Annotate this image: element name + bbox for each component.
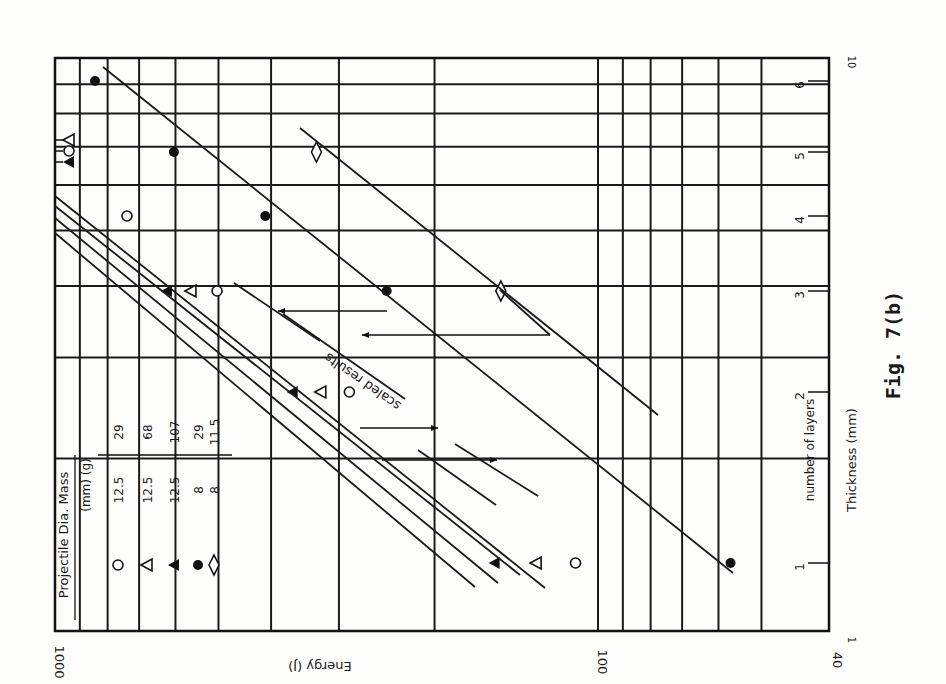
data-point-open-triangle — [315, 386, 326, 398]
diamond-fit-tail — [500, 290, 550, 335]
scaled-line — [283, 314, 405, 399]
energy-axis-label: Energy (J) — [288, 659, 352, 674]
annotation-scaled-results: scaled results — [321, 350, 403, 414]
thickness-tick-1: 1 — [846, 637, 857, 643]
legend-mass-4: 11.5 — [208, 419, 222, 446]
data-point-open-triangle — [530, 557, 541, 569]
layer-tick-label-1: 1 — [793, 563, 807, 571]
thickness-axis-label: Thickness (mm) — [844, 408, 859, 513]
data-point-open-circle — [571, 558, 581, 568]
figure-caption: Fig. 7(b) — [881, 291, 905, 399]
layer-tick-label-4: 4 — [793, 216, 807, 224]
energy-tick-40: 40 — [830, 652, 845, 669]
legend-dia-3: 8 — [192, 486, 206, 494]
legend-dia-2: 12.5 — [168, 477, 182, 504]
legend-mass-1: 68 — [141, 424, 155, 439]
chart: 100010040Energy (J)110Thickness (mm)numb… — [0, 0, 946, 684]
data-point-open-circle — [113, 560, 123, 570]
data-point-filled-circle — [260, 211, 270, 221]
plot-frame — [55, 58, 829, 631]
fit-line — [55, 218, 498, 583]
data-point-open-triangle — [141, 559, 152, 571]
legend-mass-0: 29 — [112, 424, 126, 439]
data-point-filled-circle — [726, 558, 736, 568]
legend-dia-1: 12.5 — [141, 477, 155, 504]
data-point-open-circle — [344, 387, 354, 397]
arrow-head — [362, 332, 369, 338]
fit-line — [55, 196, 545, 588]
legend-header: Projectile Dia. Mass — [56, 472, 71, 599]
legend-mass-3: 29 — [192, 424, 206, 439]
layer-tick-label-3: 3 — [793, 291, 807, 299]
data-point-filled-circle — [169, 147, 179, 157]
data-point-open-circle — [122, 211, 132, 221]
energy-tick-1000: 1000 — [52, 645, 67, 678]
energy-tick-100: 100 — [595, 650, 610, 675]
data-point-filled-triangle — [489, 557, 500, 569]
data-point-filled-circle — [193, 560, 203, 570]
data-point-open-triangle — [63, 134, 74, 146]
legend-units: (mm) (g) — [79, 458, 93, 512]
data-point-open-circle — [212, 286, 222, 296]
fit-line — [55, 206, 520, 575]
layers-axis-label: number of layers — [803, 399, 817, 501]
scaled-line — [455, 444, 538, 496]
legend-dia-4: 8 — [208, 486, 222, 494]
layer-tick-label-6: 6 — [793, 81, 807, 89]
legend-mass-2: 107 — [168, 421, 182, 444]
data-point-filled-circle — [90, 76, 100, 86]
legend-dia-0: 12.5 — [112, 477, 126, 504]
grid — [55, 58, 829, 631]
data-point-open-circle — [64, 146, 74, 156]
data-point-filled-triangle — [63, 156, 74, 168]
scaled-line — [234, 283, 320, 341]
layer-tick-label-2: 2 — [793, 392, 807, 400]
thickness-tick-10: 10 — [846, 56, 857, 69]
layer-tick-label-5: 5 — [793, 152, 807, 160]
data-point-filled-triangle — [168, 559, 179, 571]
